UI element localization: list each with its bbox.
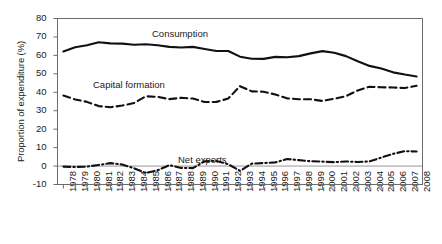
plot-area (0, 0, 442, 244)
series-line-net-exports (63, 151, 416, 173)
series-label-consumption: Consumption (152, 28, 208, 39)
series-line-consumption (63, 42, 416, 76)
series-label-capital-formation: Capital formation (93, 79, 165, 90)
data-series-group (63, 42, 416, 173)
series-label-net-exports: Net exports (178, 154, 227, 165)
expenditure-composition-chart: Proportion of expenditure (%) 8070605040… (0, 0, 442, 244)
